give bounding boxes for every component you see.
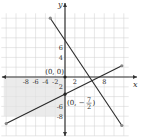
x-tick-label: -4 xyxy=(42,78,48,86)
y-axis-arrow-down xyxy=(63,132,67,136)
y-axis-label: y xyxy=(57,0,63,9)
point-y-intercept xyxy=(63,93,66,96)
point-label-close-paren: ) xyxy=(93,99,96,107)
x-tick-label: -8 xyxy=(23,78,29,86)
line-arrowhead xyxy=(120,64,123,67)
y-tick-label: 6 xyxy=(59,44,63,52)
line-arrowhead xyxy=(120,124,123,127)
line-arrowhead xyxy=(5,122,8,125)
y-tick-label: 4 xyxy=(59,54,63,62)
point-label-origin: (0, 0) xyxy=(45,68,64,76)
x-tick-label: -2 xyxy=(52,78,58,86)
x-tick-label: 2 xyxy=(73,78,77,86)
y-axis-arrow-up xyxy=(63,3,67,7)
line-arrowhead xyxy=(49,17,52,20)
x-tick-label: 8 xyxy=(102,78,106,86)
y-tick-label: -8 xyxy=(57,113,63,121)
fraction-denominator: 2 xyxy=(87,103,91,111)
y-tick-label: 2 xyxy=(59,83,63,91)
x-axis-arrow-right xyxy=(133,75,137,79)
y-tick-label: -6 xyxy=(57,103,63,111)
x-tick-label: -6 xyxy=(32,78,38,86)
x-axis-label: x xyxy=(133,80,138,89)
coordinate-plane: -8-6-4-228642-6-8 x y (0, 0)(0, −72) xyxy=(0,0,141,139)
point-label-y-intercept: (0, − xyxy=(67,99,85,107)
